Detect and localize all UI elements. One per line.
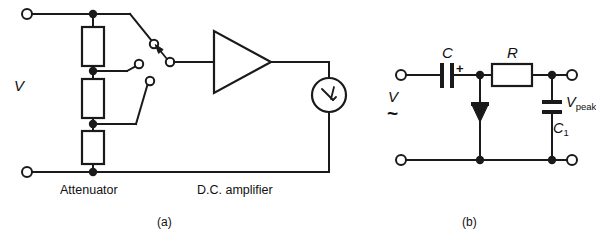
- smoothing-capacitor-label-sub: 1: [563, 127, 568, 138]
- output-voltage-label: Vpeak: [566, 95, 596, 110]
- input-terminal-bottom-b[interactable]: [396, 155, 406, 165]
- smoothing-capacitor-label: C1: [553, 121, 569, 136]
- node-dot-b-top-right: [548, 71, 556, 79]
- node-dot-b-bottom-mid: [476, 156, 484, 164]
- panel-a-circuit: [22, 9, 346, 177]
- node-dot-top: [89, 10, 97, 18]
- node-dot-b-bottom-right: [548, 156, 556, 164]
- output-terminal-top-b[interactable]: [567, 70, 577, 80]
- output-voltage-label-main: V: [566, 94, 576, 110]
- wire-tap0-contact-lead: [130, 14, 152, 41]
- node-dot-tap1: [89, 67, 97, 75]
- panel-a-caption: (a): [157, 216, 172, 228]
- diode-anode-triangle: [472, 105, 488, 122]
- attenuator-label: Attenuator: [60, 184, 118, 197]
- wire-tap2-contact-lead: [136, 83, 148, 124]
- node-dot-tap2: [89, 120, 97, 128]
- attenuator-resistor-middle: [82, 79, 104, 118]
- switch-contact-middle[interactable]: [135, 60, 143, 68]
- node-dot-bottom: [89, 168, 97, 176]
- dc-amplifier-label: D.C. amplifier: [197, 184, 273, 197]
- output-voltage-label-sub: peak: [576, 101, 596, 112]
- ac-source-symbol: ~: [387, 104, 398, 123]
- panel-b-circuit: [396, 63, 577, 165]
- output-terminal-bottom-b[interactable]: [567, 155, 577, 165]
- node-dot-b-top-mid: [476, 71, 484, 79]
- panel-a-source-label: V: [14, 78, 24, 93]
- load-resistor-r: [492, 64, 532, 86]
- smoothing-capacitor-label-main: C: [553, 120, 563, 136]
- attenuator-resistor-top: [82, 27, 104, 66]
- coupling-capacitor-label: C: [442, 45, 453, 60]
- input-terminal-top-a[interactable]: [22, 9, 32, 19]
- load-resistor-label: R: [507, 45, 518, 60]
- capacitor-polarity-label: +: [456, 62, 464, 75]
- panel-b-caption: (b): [462, 216, 477, 228]
- input-terminal-bottom-a[interactable]: [22, 167, 32, 177]
- panel-b-source-label: V: [388, 89, 398, 104]
- input-terminal-top-b[interactable]: [396, 70, 406, 80]
- dc-amplifier-triangle: [214, 31, 271, 93]
- switch-contact-bottom[interactable]: [146, 77, 154, 85]
- attenuator-resistor-bottom: [82, 131, 104, 164]
